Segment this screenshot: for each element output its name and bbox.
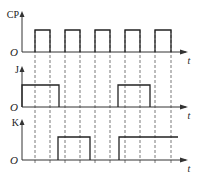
j-waveform xyxy=(22,85,150,107)
arrow-up-icon xyxy=(20,66,25,72)
time-axis-label: t xyxy=(188,163,191,174)
arrow-right-icon xyxy=(180,105,188,110)
signal-axes xyxy=(20,11,189,163)
k-waveform xyxy=(58,137,178,160)
arrow-up-icon xyxy=(20,119,25,125)
arrow-right-icon xyxy=(180,158,188,163)
origin-label: O xyxy=(10,46,18,58)
time-axis-label: t xyxy=(188,110,191,121)
jk-timing-diagram: CPOtJOtKOt xyxy=(0,0,202,179)
arrow-right-icon xyxy=(180,50,188,55)
k-signal-label: K xyxy=(12,117,20,128)
origin-label: O xyxy=(10,154,18,166)
cp-waveform xyxy=(35,30,171,52)
j-signal-label: J xyxy=(15,64,19,75)
arrow-up-icon xyxy=(20,11,25,17)
signal-labels: CPOtJOtKOt xyxy=(7,9,191,174)
origin-label: O xyxy=(10,101,18,113)
time-axis-label: t xyxy=(188,55,191,66)
cp-signal-label: CP xyxy=(7,9,20,20)
